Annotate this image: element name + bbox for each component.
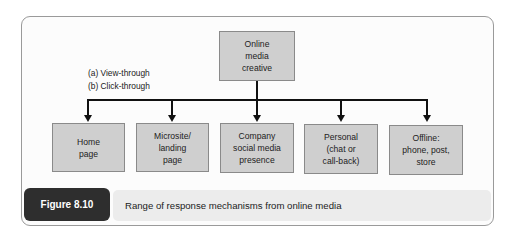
child-node-home-page: Home page [52,123,125,172]
connector-line-personal [340,99,342,116]
arrow-down-icon [337,115,345,122]
root-connector-line [256,81,258,101]
child-node-offline: Offline: phone, post, store [389,125,463,175]
connector-line-microsite [171,99,173,116]
child-node-microsite: Microsite/ landing page [136,123,209,172]
connector-line-home [87,99,89,116]
response-type-legend: (a) View-through (b) Click-through [88,67,150,93]
child-node-company-social: Company social media presence [220,123,294,173]
figure-caption: Range of response mechanisms from online… [113,190,491,221]
arrow-down-icon [84,115,92,122]
connector-line-offline [426,99,428,116]
connector-line-company [256,99,258,116]
arrow-down-icon [168,115,176,122]
child-node-personal: Personal (chat or call-back) [304,124,378,174]
arrow-down-icon [423,115,431,122]
figure-number-label: Figure 8.10 [24,188,110,221]
root-node-online-media-creative: Online media creative [219,31,295,81]
arrow-down-icon [253,115,261,122]
